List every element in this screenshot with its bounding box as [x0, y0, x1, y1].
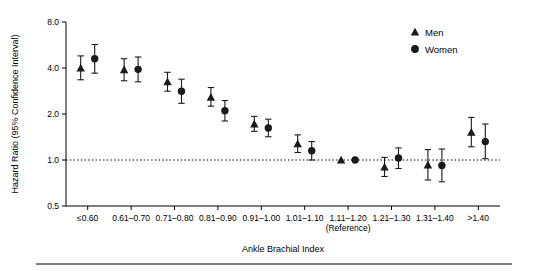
x-tick-label: 0.71–0.80	[156, 213, 194, 223]
y-axis-title: Hazard Ratio (95% Confidence Interval)	[10, 34, 20, 193]
data-point-women	[221, 107, 228, 114]
reference-note: (Reference)	[326, 223, 371, 233]
data-point-men	[207, 93, 215, 101]
data-point-men	[163, 78, 171, 86]
x-tick-label: 1.01–1.10	[286, 213, 324, 223]
x-tick-label: 0.81–0.90	[199, 213, 237, 223]
data-point-men	[294, 139, 302, 147]
legend-marker-women	[411, 45, 419, 53]
data-point-men	[250, 120, 258, 128]
x-tick-label: 0.91–1.00	[242, 213, 280, 223]
data-point-men	[380, 163, 388, 171]
y-tick-label: 8.0	[47, 17, 59, 27]
data-point-women	[265, 124, 272, 131]
data-point-men	[467, 128, 475, 136]
x-axis-title: Ankle Brachial Index	[242, 244, 325, 254]
y-tick-label: 1.0	[47, 155, 59, 165]
data-point-women	[91, 55, 98, 62]
data-point-women	[395, 154, 402, 161]
legend-marker-men	[411, 28, 419, 36]
x-tick-label: >1.40	[468, 213, 490, 223]
y-tick-label: 4.0	[47, 63, 59, 73]
chart-figure: 0.51.02.04.08.0Hazard Ratio (95% Confide…	[0, 0, 540, 271]
data-point-women	[482, 138, 489, 145]
data-point-men	[77, 64, 85, 72]
x-tick-label: ≤0.60	[77, 213, 98, 223]
data-point-women	[178, 87, 185, 94]
x-tick-label: 1.11–1.20	[330, 213, 367, 223]
series-men	[77, 56, 476, 180]
x-tick-label: 1.31–1.40	[416, 213, 454, 223]
data-point-women	[308, 147, 315, 154]
x-tick-label: 1.21–1.30	[373, 213, 411, 223]
chart-canvas: 0.51.02.04.08.0Hazard Ratio (95% Confide…	[0, 0, 540, 271]
legend: MenWomen	[411, 27, 458, 55]
legend-label-men: Men	[425, 27, 443, 38]
y-tick-label: 0.5	[47, 201, 59, 211]
x-tick-label: 0.61–0.70	[112, 213, 150, 223]
data-point-women	[351, 156, 358, 163]
legend-label-women: Women	[425, 44, 458, 55]
data-point-women	[438, 162, 445, 169]
data-point-women	[134, 66, 141, 73]
y-tick-label: 2.0	[47, 109, 59, 119]
data-point-men	[424, 161, 432, 169]
series-women	[91, 44, 489, 181]
data-point-men	[120, 65, 128, 73]
